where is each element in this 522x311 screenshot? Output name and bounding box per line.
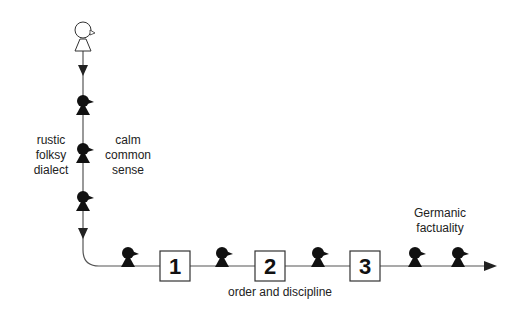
person-icon — [121, 247, 139, 267]
arrow-down-icon-bottom — [78, 228, 88, 239]
open-person-icon — [75, 22, 95, 51]
person-icon — [408, 247, 426, 267]
diagram-canvas: 1 2 3 — [0, 0, 522, 311]
step-box-2-label: 2 — [264, 254, 276, 279]
arrow-right-icon — [484, 261, 497, 271]
step-box-2: 2 — [255, 251, 285, 281]
person-icon — [76, 143, 94, 163]
step-box-1-label: 1 — [169, 254, 181, 279]
person-icon — [76, 191, 94, 211]
step-box-3-label: 3 — [359, 254, 371, 279]
label-calm-common-sense: calm common sense — [100, 133, 156, 178]
label-rustic-folksy-dialect: rustic folksy dialect — [26, 133, 76, 178]
label-germanic-factuality: Germanic factuality — [405, 206, 475, 236]
person-icon — [311, 247, 329, 267]
person-icon — [76, 95, 94, 115]
path-corner — [83, 250, 99, 266]
label-order-and-discipline: order and discipline — [210, 285, 350, 300]
person-icon — [215, 247, 233, 267]
step-box-1: 1 — [160, 251, 190, 281]
arrow-down-icon-top — [78, 65, 88, 76]
person-icon — [451, 247, 469, 267]
step-box-3: 3 — [350, 251, 380, 281]
